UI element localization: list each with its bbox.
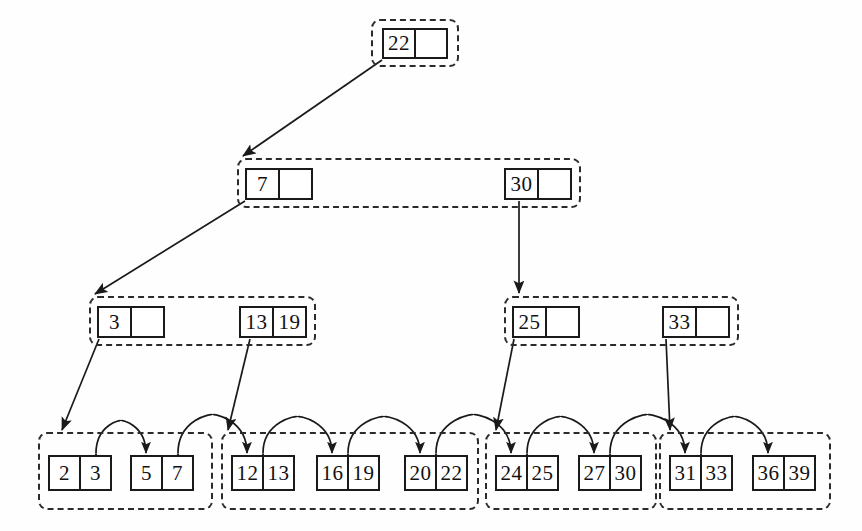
b-plus-tree-diagram: 2273031319253323571213161920222425273031… (0, 0, 862, 531)
node-cell-key: 20 (406, 457, 435, 489)
tree-node[interactable]: 22 (382, 28, 448, 59)
tree-node[interactable]: 1213 (231, 455, 295, 491)
tree-node[interactable]: 33 (662, 306, 730, 338)
tree-node[interactable]: 3639 (752, 455, 816, 491)
node-cell-key: 31 (671, 457, 700, 489)
tree-node[interactable]: 7 (245, 168, 313, 200)
node-cell-key: 19 (272, 308, 305, 336)
node-cell-key: 3 (79, 457, 110, 489)
node-cell-key: 5 (132, 457, 161, 489)
tree-node[interactable]: 57 (130, 455, 194, 491)
child-pointer-arrow (243, 60, 382, 156)
node-cell-key: 7 (161, 457, 192, 489)
node-cell-key: 27 (580, 457, 609, 489)
node-cell-key: 16 (318, 457, 347, 489)
node-cell-key: 19 (347, 457, 378, 489)
node-cell-empty (545, 308, 578, 336)
node-cell-key: 13 (262, 457, 293, 489)
child-pointer-arrow (496, 339, 514, 430)
node-cell-empty (537, 170, 570, 198)
tree-node[interactable]: 2425 (495, 455, 559, 491)
node-cell-key: 7 (247, 170, 278, 198)
node-cell-key: 39 (783, 457, 814, 489)
node-cell-key: 36 (754, 457, 783, 489)
tree-node[interactable]: 1619 (316, 455, 380, 491)
node-cell-key: 22 (435, 457, 466, 489)
node-cell-key: 30 (609, 457, 640, 489)
node-cell-key: 25 (514, 308, 545, 336)
node-cell-empty (278, 170, 311, 198)
tree-node[interactable]: 1319 (239, 306, 307, 338)
tree-node[interactable]: 2730 (578, 455, 642, 491)
node-cell-key: 3 (99, 308, 130, 336)
tree-node[interactable]: 25 (512, 306, 580, 338)
tree-node[interactable]: 30 (504, 168, 572, 200)
node-cell-empty (414, 30, 446, 57)
node-cell-key: 33 (700, 457, 731, 489)
tree-node[interactable]: 3133 (669, 455, 733, 491)
node-cell-key: 24 (497, 457, 526, 489)
node-cell-key: 33 (664, 308, 695, 336)
child-pointer-arrow (95, 201, 245, 294)
node-cell-key: 30 (506, 170, 537, 198)
tree-node[interactable]: 2022 (404, 455, 468, 491)
node-cell-key: 25 (526, 457, 557, 489)
child-pointer-arrow (62, 339, 99, 430)
node-cell-empty (130, 308, 163, 336)
pointer-edge-group (62, 60, 670, 430)
node-cell-key: 22 (384, 30, 414, 57)
node-cell-key: 2 (50, 457, 79, 489)
node-cell-empty (695, 308, 728, 336)
node-cell-key: 13 (241, 308, 272, 336)
child-pointer-arrow (666, 339, 670, 430)
node-cell-key: 12 (233, 457, 262, 489)
tree-node[interactable]: 3 (97, 306, 165, 338)
child-pointer-arrow (228, 339, 250, 430)
tree-node[interactable]: 23 (48, 455, 112, 491)
